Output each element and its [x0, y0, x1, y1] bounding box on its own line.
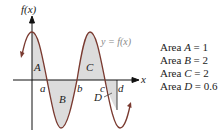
legend-prefix: Area — [160, 41, 184, 53]
legend-prefix: Area — [160, 54, 184, 66]
legend-value: = 1 — [191, 41, 208, 53]
tick-label-b: b — [77, 82, 83, 94]
axes — [13, 16, 139, 130]
legend-prefix: Area — [160, 80, 184, 92]
tick-label-d: d — [118, 82, 124, 94]
tick-label-a: a — [40, 82, 46, 94]
region-label-c: C — [86, 61, 94, 73]
y-axis-arrow-icon — [30, 16, 35, 23]
legend-item-area-b: Area B = 2 — [160, 54, 218, 67]
legend-value: = 2 — [191, 67, 208, 79]
legend-var: A — [184, 41, 191, 53]
y-axis-label: f(x) — [21, 3, 37, 16]
legend-prefix: Area — [160, 67, 184, 79]
x-axis-label: x — [140, 73, 146, 85]
legend-var: B — [184, 54, 191, 66]
tick-label-c: c — [100, 82, 105, 94]
region-label-b: B — [59, 93, 66, 105]
legend-value: = 0.6 — [192, 80, 217, 92]
x-axis-arrow-icon — [132, 78, 139, 83]
region-d-fill — [105, 80, 117, 110]
legend-item-area-d: Area D = 0.6 — [160, 80, 218, 93]
legend-value: = 2 — [191, 54, 208, 66]
region-label-a: A — [33, 61, 41, 73]
curve-label: y = f(x) — [100, 36, 132, 48]
area-legend: Area A = 1 Area B = 2 Area C = 2 Area D … — [160, 41, 218, 93]
legend-var: D — [184, 80, 192, 92]
curve-left-arrow-icon — [20, 51, 25, 58]
legend-item-area-a: Area A = 1 — [160, 41, 218, 54]
legend-item-area-c: Area C = 2 — [160, 67, 218, 80]
